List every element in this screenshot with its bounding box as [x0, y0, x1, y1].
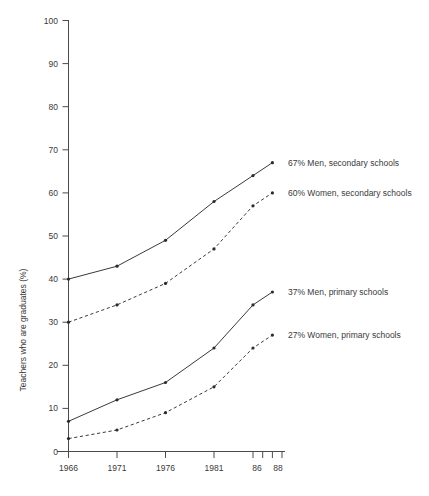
series-women-secondary — [67, 191, 274, 324]
data-point — [67, 321, 70, 324]
data-point — [115, 428, 118, 431]
x-tick-label: 88 — [273, 463, 283, 473]
data-point — [212, 247, 215, 250]
y-tick-label: 0 — [53, 447, 58, 457]
y-tick-label: 60 — [49, 188, 59, 198]
line-chart: 100 90 80 70 60 50 40 30 20 10 0 1966 19 — [0, 0, 429, 496]
y-tick-label: 30 — [49, 317, 59, 327]
data-point — [67, 278, 70, 281]
y-axis-ticks — [63, 21, 69, 452]
y-tick-label: 90 — [49, 59, 59, 69]
data-point — [164, 282, 167, 285]
y-tick-label: 100 — [44, 16, 58, 26]
x-axis-ticks — [69, 452, 283, 459]
data-point — [212, 346, 215, 349]
y-axis-tick-labels: 100 90 80 70 60 50 40 30 20 10 0 — [44, 16, 58, 457]
annotation-women-secondary: 60% Women, secondary schools — [288, 188, 412, 198]
series-men-secondary — [67, 161, 274, 281]
y-tick-label: 70 — [49, 145, 59, 155]
series-path-women-secondary — [69, 193, 273, 322]
x-tick-label: 1976 — [156, 463, 175, 473]
data-point — [212, 385, 215, 388]
data-point — [271, 290, 274, 293]
data-point — [271, 191, 274, 194]
y-tick-label: 10 — [49, 403, 59, 413]
y-axis-title: Teachers who are graduates (%) — [18, 268, 28, 391]
y-tick-label: 80 — [49, 102, 59, 112]
data-point — [251, 303, 254, 306]
series-men-primary — [67, 290, 274, 423]
data-point — [164, 381, 167, 384]
x-tick-label: 86 — [252, 463, 262, 473]
x-tick-label: 1981 — [205, 463, 224, 473]
data-point — [212, 200, 215, 203]
data-point — [271, 334, 274, 337]
x-tick-label: 1971 — [108, 463, 127, 473]
annotation-men-primary: 37% Men, primary schools — [288, 287, 388, 297]
annotation-women-primary: 27% Women, primary schools — [288, 330, 401, 340]
data-point — [251, 346, 254, 349]
data-point — [115, 265, 118, 268]
data-point — [271, 161, 274, 164]
data-point — [67, 420, 70, 423]
series-path-women-primary — [69, 335, 273, 439]
x-tick-label: 1966 — [59, 463, 78, 473]
y-tick-label: 20 — [49, 360, 59, 370]
data-point — [251, 204, 254, 207]
chart-svg: 100 90 80 70 60 50 40 30 20 10 0 1966 19 — [0, 0, 429, 496]
series-women-primary — [67, 334, 274, 441]
data-point — [115, 398, 118, 401]
data-point — [251, 174, 254, 177]
x-axis-tick-labels: 1966 1971 1976 1981 86 88 — [59, 463, 283, 473]
annotation-men-secondary: 67% Men, secondary schools — [288, 158, 399, 168]
series-path-men-primary — [69, 292, 273, 421]
series-path-men-secondary — [69, 163, 273, 279]
data-point — [67, 437, 70, 440]
y-tick-label: 40 — [49, 274, 59, 284]
data-point — [164, 239, 167, 242]
y-tick-label: 50 — [49, 231, 59, 241]
data-point — [164, 411, 167, 414]
data-point — [115, 303, 118, 306]
